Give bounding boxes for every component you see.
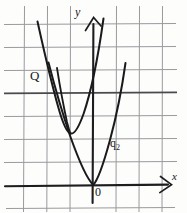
origin-label: 0 (95, 186, 101, 198)
grid-h-line (4, 139, 177, 140)
grid-v-line (116, 6, 117, 212)
graph-canvas (0, 0, 187, 213)
axes (5, 18, 172, 204)
graph-figure: Q q2 0 y x (0, 0, 187, 213)
grid-v-line (24, 6, 25, 212)
grid-v-line (70, 6, 71, 212)
x-axis-line (5, 185, 168, 187)
y-axis-label: y (75, 6, 80, 18)
grid-v-line (47, 6, 48, 212)
curve-label-q2: q2 (110, 137, 120, 152)
y-axis-line (93, 24, 94, 203)
grid-h-line (6, 208, 175, 209)
grid-h-line (4, 116, 177, 117)
grid-h-line (4, 162, 177, 163)
grid-h-line (4, 47, 176, 48)
curve-label-Q: Q (30, 69, 39, 82)
x-axis-label: x (172, 171, 177, 182)
grid-v-line (139, 6, 140, 212)
curve-label-q2-subscript: 2 (116, 143, 120, 152)
curves (38, 19, 126, 185)
curve-q2 (49, 63, 126, 185)
grid-v-line (162, 6, 163, 212)
